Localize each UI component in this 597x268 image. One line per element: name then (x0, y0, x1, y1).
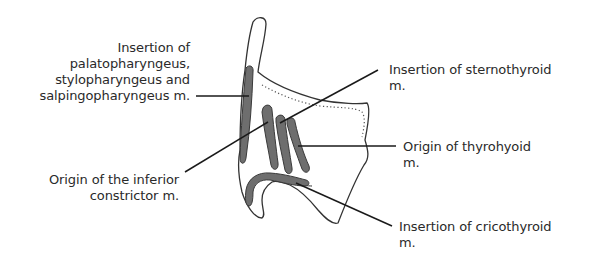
label-inferior-constrictor: Origin of the inferior constrictor m. (49, 172, 179, 204)
label-line: Insertion of cricothyroid (399, 219, 552, 235)
label-line: salpingopharyngeus m. (40, 88, 191, 104)
label-line: palatopharyngeus, (40, 56, 191, 72)
label-line: m. (399, 235, 552, 251)
label-cricothyroid: Insertion of cricothyroid m. (399, 219, 552, 251)
label-line: Origin of thyrohyoid (403, 139, 531, 155)
cartilage-outline (239, 18, 369, 224)
label-sternothyroid: Insertion of sternothyroid m. (389, 62, 551, 94)
anatomy-diagram: Insertion of palatopharyngeus, stylophar… (0, 0, 597, 268)
label-palatopharyngeus: Insertion of palatopharyngeus, stylophar… (40, 40, 191, 104)
label-line: m. (403, 155, 531, 171)
label-line: Insertion of sternothyroid (389, 62, 551, 78)
label-line: Insertion of (40, 40, 191, 56)
label-line: Origin of the inferior (49, 172, 179, 188)
label-line: constrictor m. (49, 188, 179, 204)
label-line: stylopharyngeus and (40, 72, 191, 88)
label-thyrohyoid: Origin of thyrohyoid m. (403, 139, 531, 171)
label-line: m. (389, 78, 551, 94)
